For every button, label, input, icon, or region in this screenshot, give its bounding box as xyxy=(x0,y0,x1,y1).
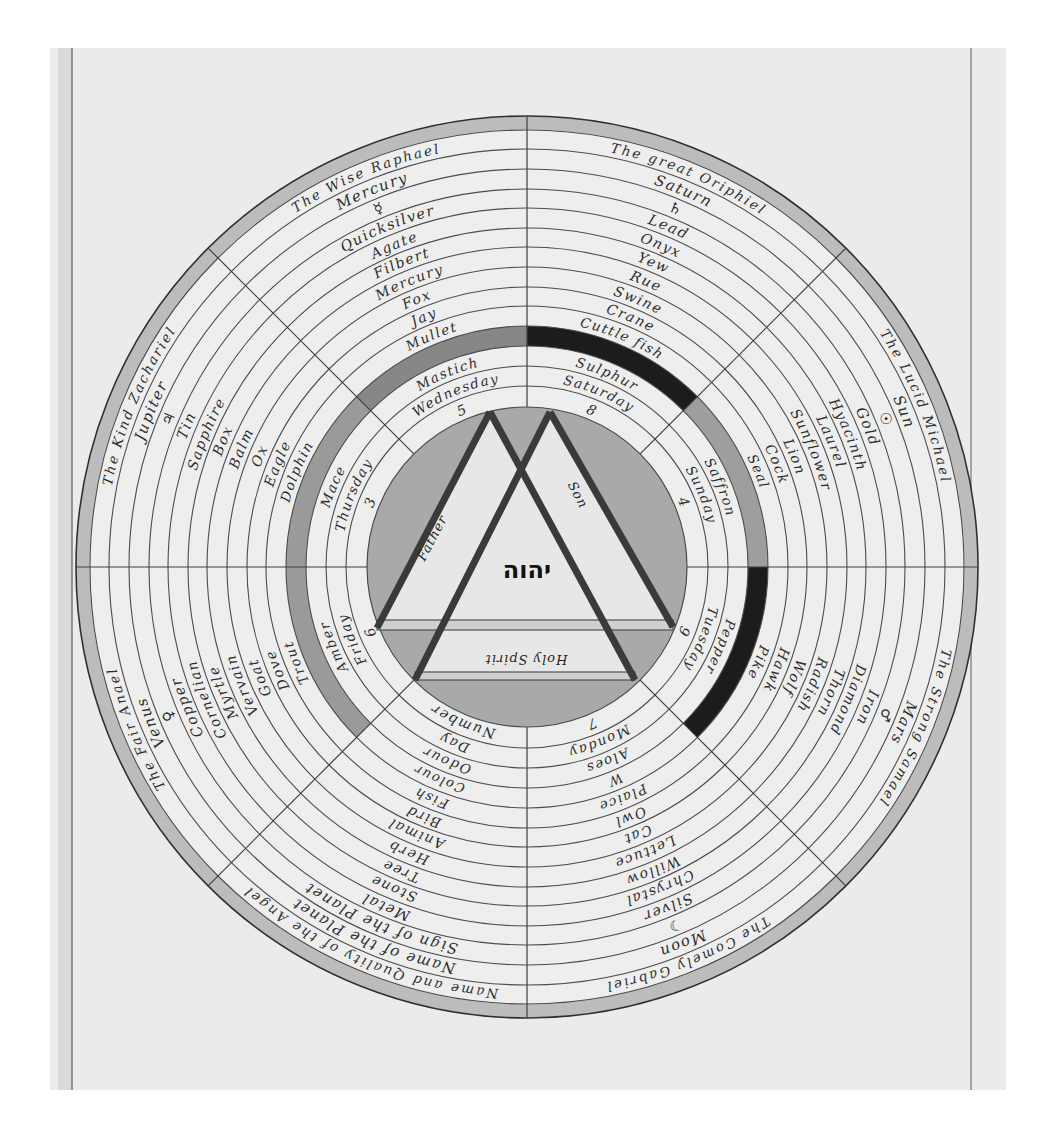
upper-crossbar xyxy=(377,620,673,630)
holy-spirit-label: Holy Spirit xyxy=(485,652,569,667)
manuscript-page: Father Son Holy Spirit יהוה The great Or… xyxy=(0,0,1049,1128)
tetragrammaton-label: יהוה xyxy=(503,556,551,584)
lower-crossbar xyxy=(415,672,635,680)
trinity-figure: Father Son Holy Spirit יהוה xyxy=(367,407,687,727)
planetary-correspondence-wheel: Father Son Holy Spirit יהוה The great Or… xyxy=(76,116,978,1018)
paper-margin-strip xyxy=(58,48,72,1090)
